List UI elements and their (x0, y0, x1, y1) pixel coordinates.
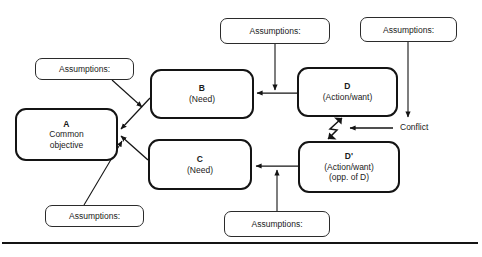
connector-c-to-a (121, 136, 148, 160)
entity-b-line2: (Need) (189, 94, 215, 105)
conflict-zigzag-icon (328, 118, 342, 140)
assumption-box-top-mid[interactable]: Assumptions: (220, 18, 330, 44)
assumption-box-left-bottom[interactable]: Assumptions: (45, 205, 144, 227)
entity-box-b[interactable]: B (Need) (150, 69, 254, 119)
entity-d-prime-line3: (opp. of D) (329, 172, 369, 183)
entity-d-line2: (Action/want) (323, 92, 373, 103)
connector-assumption-left-top (112, 80, 142, 107)
diagram-canvas: A Common objective B (Need) C (Need) D (… (0, 0, 482, 257)
entity-d-prime-label: D' (345, 151, 354, 162)
entity-d-prime-line2: (Action/want) (324, 162, 374, 173)
assumption-left-bottom-label: Assumptions: (69, 211, 120, 221)
entity-a-label: A (63, 119, 69, 130)
entity-box-c[interactable]: C (Need) (148, 139, 252, 190)
entity-a-line3: objective (50, 140, 84, 151)
entity-a-line2: Common (49, 129, 83, 140)
assumption-box-top-right[interactable]: Assumptions: (360, 17, 457, 42)
assumption-top-right-label: Assumptions: (383, 25, 434, 35)
assumption-box-left-top[interactable]: Assumptions: (35, 58, 134, 80)
entity-c-label: C (197, 154, 203, 165)
connector-b-to-a (121, 98, 150, 129)
entity-box-d[interactable]: D (Action/want) (297, 67, 398, 117)
entity-box-d-prime[interactable]: D' (Action/want) (opp. of D) (298, 141, 400, 193)
entity-b-label: B (199, 83, 205, 94)
entity-c-line2: (Need) (187, 165, 213, 176)
conflict-label: Conflict (399, 122, 429, 132)
assumption-bottom-mid-label: Assumptions: (251, 219, 302, 229)
assumption-box-bottom-mid[interactable]: Assumptions: (224, 211, 330, 237)
assumption-top-mid-label: Assumptions: (249, 26, 300, 36)
entity-box-a[interactable]: A Common objective (15, 108, 118, 161)
entity-d-label: D (344, 81, 350, 92)
assumption-left-top-label: Assumptions: (59, 64, 110, 74)
